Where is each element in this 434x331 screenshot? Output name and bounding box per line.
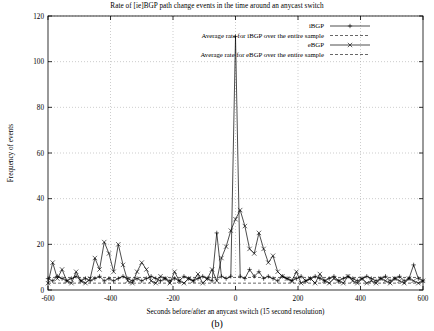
series-line — [48, 210, 423, 283]
chart-plot: 020406080100120-600-400-2000200400600Sec… — [0, 0, 434, 331]
legend-label: Average rate for iBGP over the entire sa… — [202, 32, 324, 39]
y-tick-label: 80 — [37, 104, 45, 112]
x-axis-label: Seconds before/after an anycast switch (… — [147, 308, 325, 316]
series-ibgp — [46, 34, 425, 283]
y-tick-label: 120 — [33, 13, 44, 21]
series-ebgp — [46, 208, 425, 285]
y-tick-label: 0 — [40, 287, 44, 295]
y-axis-label: Frequency of events — [7, 124, 15, 182]
legend-label: iBGP — [309, 22, 324, 29]
legend-label: eBGP — [308, 41, 324, 48]
x-tick-label: 200 — [293, 295, 304, 303]
y-tick-label: 20 — [37, 241, 45, 249]
legend: iBGPAverage rate for iBGP over the entir… — [200, 22, 370, 58]
y-tick-label: 100 — [33, 58, 44, 66]
x-tick-label: -400 — [104, 295, 118, 303]
x-tick-label: 400 — [355, 295, 366, 303]
x-tick-label: 600 — [418, 295, 429, 303]
y-tick-label: 40 — [37, 195, 45, 203]
y-tick-label: 60 — [37, 150, 45, 158]
legend-label: Average rate for eBGP over the entire sa… — [200, 51, 324, 58]
x-tick-label: -200 — [166, 295, 180, 303]
x-tick-label: -600 — [41, 295, 55, 303]
figure-container: Rate of [ie]BGP path change events in th… — [0, 0, 434, 331]
figure-caption: (b) — [0, 318, 434, 329]
x-tick-label: 0 — [234, 295, 238, 303]
